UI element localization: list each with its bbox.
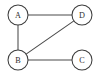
node-a-label: A [15, 11, 21, 20]
graph-diagram-canvas: A D B C [0, 0, 101, 80]
edge-group [18, 15, 74, 60]
graph-diagram: A D B C [0, 0, 101, 80]
node-d: D [72, 5, 92, 25]
node-c-label: C [79, 56, 85, 65]
node-d-label: D [79, 11, 85, 20]
edge-b-d [26, 21, 74, 54]
node-c: C [72, 50, 92, 70]
node-b: B [8, 50, 28, 70]
node-a: A [8, 5, 28, 25]
node-b-label: B [15, 56, 21, 65]
